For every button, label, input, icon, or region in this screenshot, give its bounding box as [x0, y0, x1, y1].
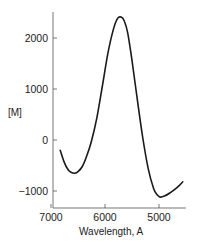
x-ticks	[51, 204, 159, 208]
y-tick-label: 1000	[4, 83, 48, 95]
x-tick-label: 6000	[85, 211, 125, 223]
x-tick-label: 5000	[139, 211, 179, 223]
x-tick-label: 7000	[31, 211, 71, 223]
y-tick-label: 0	[4, 134, 48, 146]
y-tick-label: −1000	[4, 185, 48, 197]
y-tick-label: 2000	[4, 32, 48, 44]
y-axis-label: [M]	[8, 107, 22, 118]
x-axis-label: Wavelength, A	[79, 226, 143, 237]
y-ticks	[53, 38, 57, 191]
chart: 2000 1000 0 −1000 [M] 7000 6000 5000 Wav…	[0, 0, 198, 242]
data-line	[60, 17, 183, 197]
